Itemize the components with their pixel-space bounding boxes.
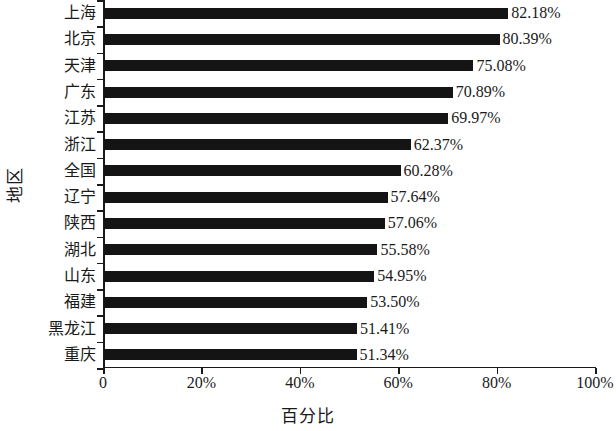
bar-value-label: 62.37%: [414, 137, 463, 153]
bar: [104, 349, 357, 360]
y-axis-category-label: 天津: [64, 58, 96, 74]
bar-value-label: 75.08%: [476, 58, 525, 74]
x-axis-tick-label: 0: [99, 374, 107, 392]
bar: [104, 297, 367, 308]
plot-area: 82.18%80.39%75.08%70.89%69.97%62.37%60.2…: [103, 0, 595, 368]
y-axis-category-label: 辽宁: [64, 189, 96, 205]
bar-value-label: 60.28%: [404, 163, 453, 179]
y-axis-category-label: 湖北: [64, 242, 96, 258]
x-axis-tick-labels: 020%40%60%80%100%: [103, 374, 596, 396]
bar-value-label: 55.58%: [380, 242, 429, 258]
y-axis-category-label: 广东: [64, 84, 96, 100]
bar: [104, 165, 401, 176]
y-axis-title: 地区: [0, 0, 26, 368]
bar: [104, 139, 411, 150]
y-axis-tick: [97, 263, 103, 265]
bar-value-label: 54.95%: [377, 268, 426, 284]
y-axis-tick: [97, 131, 103, 133]
bar-value-label: 57.64%: [391, 189, 440, 205]
bar: [104, 271, 374, 282]
x-axis-line: [103, 367, 596, 369]
x-axis-tick-label: 60%: [384, 374, 413, 392]
x-axis-tick-label: 40%: [285, 374, 314, 392]
bar: [104, 113, 448, 124]
bar: [104, 60, 473, 71]
bar: [104, 323, 357, 334]
y-axis-category-label: 山东: [64, 268, 96, 284]
y-axis-category-labels: 上海北京天津广东江苏浙江全国辽宁陕西湖北山东福建黑龙江重庆: [26, 0, 99, 368]
bar-value-label: 80.39%: [503, 31, 552, 47]
y-axis-tick: [97, 105, 103, 107]
bar-value-label: 57.06%: [388, 215, 437, 231]
y-axis-category-label: 全国: [64, 163, 96, 179]
y-axis-tick: [97, 0, 103, 2]
y-axis-category-label: 福建: [64, 294, 96, 310]
y-axis-category-label: 浙江: [64, 137, 96, 153]
bar-value-label: 70.89%: [456, 84, 505, 100]
bar: [104, 192, 388, 203]
chart-figure: 地区 上海北京天津广东江苏浙江全国辽宁陕西湖北山东福建黑龙江重庆 82.18%8…: [0, 0, 616, 431]
y-axis-tick: [97, 26, 103, 28]
bar-value-label: 51.34%: [360, 347, 409, 363]
y-axis-tick: [97, 53, 103, 55]
y-axis-category-label: 上海: [64, 5, 96, 21]
y-axis-category-label: 陕西: [64, 215, 96, 231]
x-axis-tick-label: 80%: [482, 374, 511, 392]
x-axis-title: 百分比: [0, 402, 616, 427]
bar-value-label: 53.50%: [370, 294, 419, 310]
bar: [104, 87, 453, 98]
bar: [104, 8, 508, 19]
y-axis-tick: [97, 184, 103, 186]
x-axis-tick-label: 20%: [187, 374, 216, 392]
y-axis-tick: [97, 289, 103, 291]
bar: [104, 34, 500, 45]
y-axis-tick: [97, 210, 103, 212]
bar-value-label: 51.41%: [360, 321, 409, 337]
x-axis-tick-label: 100%: [576, 374, 613, 392]
x-axis-title-label: 百分比: [281, 407, 335, 426]
y-axis-line: [103, 0, 105, 368]
bar: [104, 244, 377, 255]
y-axis-category-label: 黑龙江: [48, 321, 96, 337]
y-axis-category-label: 江苏: [64, 110, 96, 126]
y-axis-tick: [97, 79, 103, 81]
y-axis-tick: [97, 342, 103, 344]
y-axis-tick: [97, 237, 103, 239]
bar: [104, 218, 385, 229]
y-axis-tick: [97, 315, 103, 317]
y-axis-category-label: 北京: [64, 31, 96, 47]
bar-value-label: 69.97%: [451, 110, 500, 126]
y-axis-tick: [97, 158, 103, 160]
y-axis-title-label: 地区: [1, 166, 26, 202]
bar-value-label: 82.18%: [511, 5, 560, 21]
y-axis-category-label: 重庆: [64, 347, 96, 363]
